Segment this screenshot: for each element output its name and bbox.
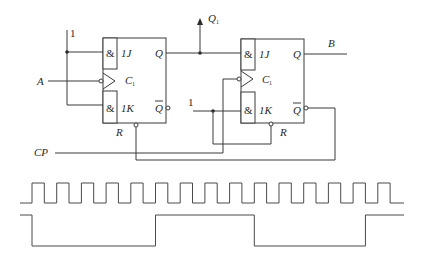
ff2-and-j-label: &	[244, 48, 253, 60]
ff2-reset-bubble	[269, 122, 273, 126]
ff1-clock-sub: 1	[132, 81, 135, 87]
logic-one-label-right: 1	[188, 96, 194, 108]
ff2-reset-label: R	[279, 126, 287, 138]
b-label: B	[328, 37, 335, 49]
flipflop-1: & 1J C 1 & 1K Q Q R	[99, 38, 170, 138]
q1-sub: 1	[216, 19, 219, 25]
junction-dot	[65, 50, 69, 54]
ff1-qbar-bubble	[166, 106, 170, 110]
ff1-reset-label: R	[115, 126, 123, 138]
ff2-k-label: 1K	[259, 104, 273, 116]
ff2-j-label: 1J	[259, 48, 271, 60]
flipflop-2: & 1J C 1 & 1K Q Q R	[237, 39, 308, 138]
logic-one-label-left: 1	[70, 27, 76, 39]
ff1-qbar-label: Q	[155, 102, 163, 114]
cp-label: CP	[34, 146, 48, 158]
output-waveform	[20, 215, 404, 246]
ff2-clock-bubble	[237, 77, 241, 81]
ff1-k-label: 1K	[121, 102, 135, 114]
ff2-clock-sub: 1	[269, 80, 272, 86]
ff1-j-label: 1J	[121, 47, 133, 59]
clock-waveform	[20, 183, 404, 203]
ff2-qbar-bubble	[304, 106, 308, 110]
q1-label: Q	[208, 12, 216, 24]
ff1-q-label: Q	[155, 47, 163, 59]
q1-arrow-icon	[197, 18, 203, 25]
ff2-q-label: Q	[293, 48, 301, 60]
input-a-label: A	[36, 75, 44, 87]
ff1-clock-bubble	[99, 79, 103, 83]
timing-waveforms	[20, 183, 404, 246]
ff1-and-j-label: &	[106, 47, 115, 59]
circuit-diagram: & 1J C 1 & 1K Q Q R & 1J C 1 & 1K Q Q R	[0, 0, 426, 269]
ff2-qbar-label: Q	[293, 104, 301, 116]
ff1-reset-bubble	[134, 123, 138, 127]
ff2-and-k-label: &	[244, 104, 253, 116]
ff1-and-k-label: &	[106, 102, 115, 114]
